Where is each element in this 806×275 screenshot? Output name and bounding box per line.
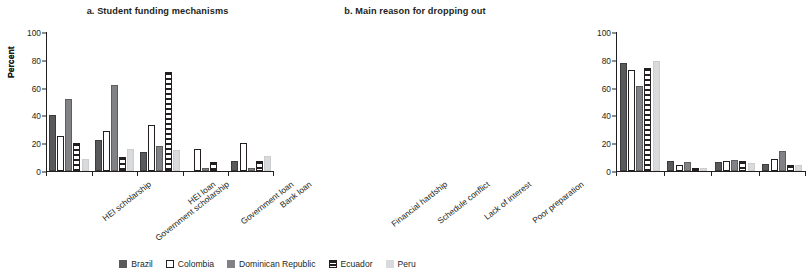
legend-label: Peru <box>398 259 416 269</box>
bar-dominican <box>65 99 72 171</box>
bar-peru <box>127 149 134 171</box>
bar-ecuador <box>739 161 746 171</box>
legend-item-brazil[interactable]: Brazil <box>119 259 153 269</box>
bar-dominican <box>248 168 255 171</box>
chart-panel-a: a. Student funding mechanisms Percent 02… <box>0 0 285 240</box>
bar-group <box>183 32 229 171</box>
legend-swatch-colombia-icon <box>166 260 174 268</box>
bar-group <box>759 32 806 171</box>
bar-brazil <box>95 140 102 171</box>
panel-a-plot-area: 020406080100 <box>46 32 274 172</box>
bar-colombia <box>628 70 635 171</box>
bar-group <box>228 32 274 171</box>
legend-label: Ecuador <box>341 259 373 269</box>
bar-ecuador <box>787 165 794 171</box>
bar-brazil <box>49 115 56 171</box>
bar-dominican <box>202 168 209 171</box>
panel-b-plot-area: 020406080100 <box>616 32 806 172</box>
legend-item-dominican[interactable]: Dominican Republic <box>227 259 315 269</box>
bar-brazil <box>231 161 238 171</box>
x-axis-tick-mark <box>711 172 712 176</box>
x-axis-category-label: Poor preparation <box>530 179 585 225</box>
bar-peru <box>700 168 707 171</box>
bar-brazil <box>715 162 722 171</box>
bar-colombia <box>723 161 730 171</box>
bar-colombia <box>103 131 110 171</box>
chart-legend: BrazilColombiaDominican RepublicEcuadorP… <box>0 259 535 269</box>
bar-colombia <box>676 165 683 171</box>
bar-ecuador <box>692 168 699 171</box>
bar-colombia <box>148 125 155 171</box>
bar-ecuador <box>210 162 217 171</box>
x-axis-tick-mark <box>46 172 47 176</box>
panel-a-x-axis <box>46 171 274 172</box>
bar-dominican <box>684 162 691 171</box>
legend-label: Dominican Republic <box>239 259 315 269</box>
bar-dominican <box>731 160 738 171</box>
panel-a-title: a. Student funding mechanisms <box>0 6 285 16</box>
legend-item-colombia[interactable]: Colombia <box>166 259 214 269</box>
legend-swatch-ecuador-icon <box>329 260 337 268</box>
bar-brazil <box>762 164 769 171</box>
bar-peru <box>748 163 755 171</box>
bar-peru <box>653 61 660 172</box>
bar-peru <box>795 165 802 171</box>
x-axis-tick-mark <box>664 172 665 176</box>
bar-group <box>616 32 664 171</box>
bar-colombia <box>57 136 64 171</box>
x-axis-tick-mark <box>137 172 138 176</box>
bar-dominican <box>111 85 118 171</box>
bar-group <box>137 32 183 171</box>
bar-brazil <box>667 161 674 171</box>
x-axis-tick-mark <box>616 172 617 176</box>
bar-peru <box>264 156 271 171</box>
bar-group <box>46 32 92 171</box>
bar-peru <box>82 159 89 172</box>
bar-dominican <box>156 146 163 171</box>
x-axis-tick-mark <box>273 172 274 176</box>
bar-ecuador <box>644 68 651 171</box>
bar-ecuador <box>165 72 172 171</box>
bar-dominican <box>636 86 643 171</box>
panel-b-ylabel: Percent <box>6 46 16 78</box>
bar-brazil <box>620 63 627 171</box>
legend-item-ecuador[interactable]: Ecuador <box>329 259 373 269</box>
bar-colombia <box>194 149 201 171</box>
bar-colombia <box>771 159 778 171</box>
x-axis-tick-mark <box>183 172 184 176</box>
bar-peru <box>173 150 180 171</box>
bar-colombia <box>240 143 247 171</box>
legend-swatch-dominican-icon <box>227 260 235 268</box>
bar-group <box>711 32 759 171</box>
x-axis-tick-mark <box>92 172 93 176</box>
legend-label: Colombia <box>178 259 214 269</box>
bar-dominican <box>779 151 786 171</box>
bar-ecuador <box>256 161 263 171</box>
legend-item-peru[interactable]: Peru <box>386 259 416 269</box>
bar-ecuador <box>119 157 126 171</box>
bar-group <box>92 32 138 171</box>
bar-group <box>664 32 712 171</box>
bar-brazil <box>140 152 147 171</box>
x-axis-tick-mark <box>759 172 760 176</box>
legend-swatch-brazil-icon <box>119 260 127 268</box>
legend-label: Brazil <box>131 259 153 269</box>
x-axis-tick-mark <box>228 172 229 176</box>
panel-b-title: b. Main reason for dropping out <box>285 6 535 16</box>
legend-swatch-peru-icon <box>386 260 394 268</box>
bar-ecuador <box>73 143 80 171</box>
